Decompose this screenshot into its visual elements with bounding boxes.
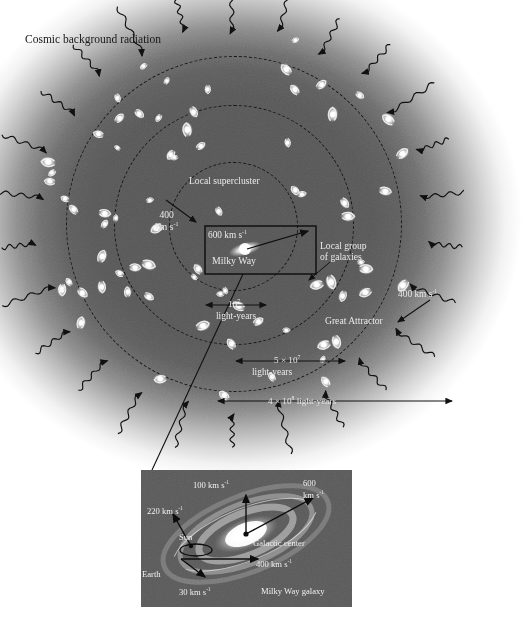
galaxy <box>194 140 208 153</box>
cbr-photon-arrow <box>359 358 386 390</box>
galaxy <box>213 205 225 218</box>
label-milky-way-galaxy: Milky Way galaxy <box>261 587 325 597</box>
cbr-photon-arrow <box>78 361 107 391</box>
cbr-photon-arrow <box>396 329 435 357</box>
cbr-photon-arrows <box>0 0 464 454</box>
galaxy <box>287 82 302 98</box>
label-milky-way-velocity: 600 km s-1 <box>208 229 247 241</box>
galaxy <box>138 61 149 71</box>
galaxy-field <box>39 36 412 403</box>
galaxy <box>326 106 339 123</box>
galaxy <box>282 327 291 333</box>
milky-way-velocity-arrow <box>247 231 308 249</box>
cbr-photon-arrow <box>417 138 449 151</box>
label-milky-way: Milky Way <box>212 256 256 267</box>
cbr-photon-arrow <box>230 414 235 447</box>
galaxy <box>393 145 412 162</box>
galaxy <box>97 280 107 294</box>
galaxy <box>43 176 57 187</box>
label-local-supercluster: Local supercluster <box>189 176 260 187</box>
galaxy <box>204 84 212 95</box>
cbr-photon-arrow <box>0 191 43 200</box>
velocity-left-value: 400 <box>155 210 178 221</box>
galaxy <box>377 185 394 198</box>
galaxy <box>91 128 106 140</box>
galaxy <box>74 315 88 331</box>
label-velocity-right: 400 km s-1 <box>398 288 437 300</box>
galaxy <box>145 196 155 204</box>
galaxy <box>112 213 119 222</box>
cbr-photon-arrow <box>2 135 46 153</box>
local-group-line-2: of galaxies <box>320 251 367 262</box>
label-rotation-100: 100 km s-1 <box>193 480 229 490</box>
galaxy <box>128 262 143 273</box>
label-bulk-600: 600 km s-1 <box>303 478 324 500</box>
label-sun-orbit-220: 220 km s-1 <box>147 506 183 516</box>
galaxy <box>112 111 127 126</box>
bulk-600-line-1: 600 <box>303 478 324 489</box>
label-galactic-center: Galactic center <box>253 539 305 549</box>
cbr-photon-arrow <box>278 400 293 454</box>
galaxy <box>318 373 333 389</box>
cbr-photon-arrow <box>2 287 55 307</box>
galaxy <box>59 193 71 204</box>
local-group-line-1: Local group <box>320 240 367 251</box>
galaxy <box>139 257 158 273</box>
arrow-400-right <box>398 300 430 322</box>
cbr-photon-arrow <box>175 0 186 32</box>
galaxy <box>113 267 126 279</box>
cbr-photon-arrow <box>118 393 142 434</box>
cbr-photon-arrow <box>2 242 36 249</box>
page-title: Cosmic background radiation <box>25 33 161 46</box>
cbr-photon-arrow <box>229 0 234 34</box>
cbr-photon-arrow <box>117 7 142 56</box>
label-earth-orbit-30: 30 km s-1 <box>179 587 211 597</box>
galaxy <box>318 354 327 364</box>
galaxy <box>308 278 325 292</box>
galaxy <box>194 318 212 333</box>
galaxy <box>113 92 123 104</box>
galaxy <box>187 104 201 120</box>
cbr-photon-arrow <box>420 190 464 199</box>
galaxy <box>162 76 172 87</box>
cbr-photon-arrow <box>387 83 434 113</box>
galaxy <box>153 112 164 124</box>
inset-milky-way-panel: 100 km s-1 600 km s-1 220 km s-1 Sun Ear… <box>141 470 352 607</box>
label-galaxy-400: 400 km s-1 <box>256 559 292 569</box>
bulk-600-line-2: km s-1 <box>303 489 324 501</box>
cbr-photon-arrow <box>73 45 99 76</box>
galaxy <box>283 137 292 149</box>
label-local-group: Local group of galaxies <box>320 240 367 263</box>
galaxy <box>141 290 156 304</box>
galaxy <box>324 273 339 292</box>
label-earth: Earth <box>142 570 161 580</box>
galaxy <box>353 89 366 101</box>
cbr-photon-arrow <box>35 332 70 354</box>
galaxy <box>315 338 333 352</box>
cbr-photon-arrow <box>319 19 340 55</box>
galaxy <box>153 374 168 385</box>
velocity-left-unit: km s-1 <box>155 221 178 233</box>
cbr-photon-arrow <box>41 91 75 116</box>
cbr-photon-arrow <box>429 242 463 249</box>
galaxy <box>39 155 57 169</box>
galaxy <box>113 143 122 152</box>
galaxy <box>330 333 343 350</box>
galaxy <box>357 285 374 300</box>
scale-label-supercluster: 5 × 107 <box>274 354 300 365</box>
cbr-photon-arrow <box>362 45 390 74</box>
galaxy <box>94 247 110 265</box>
cbr-photon-arrow <box>278 0 291 31</box>
scale-unit-local-group: light-years <box>216 311 256 322</box>
galaxy <box>340 210 357 222</box>
galaxy <box>123 286 132 298</box>
galaxy <box>290 36 300 44</box>
scale-label-great-attractor: 4 × 108 light-years <box>268 395 336 406</box>
galaxy <box>74 285 90 301</box>
galaxy <box>336 288 349 303</box>
galaxy <box>337 195 351 211</box>
label-great-attractor: Great Attractor <box>325 316 383 327</box>
galaxy <box>313 77 329 92</box>
label-velocity-left: 400 km s-1 <box>155 210 178 233</box>
